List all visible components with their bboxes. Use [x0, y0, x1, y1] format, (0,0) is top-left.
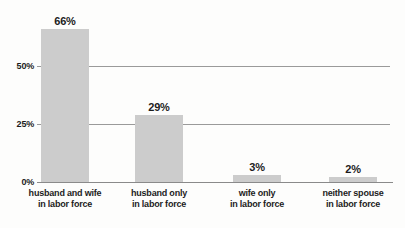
bar-group: 29%: [135, 101, 183, 182]
x-axis-category-label: husband only in labor force: [111, 188, 207, 210]
y-axis-tick-label: 50%: [0, 61, 34, 71]
y-axis-tick-label: 25%: [0, 119, 34, 129]
bar-group: 66%: [41, 15, 89, 182]
bar-group: 2%: [329, 163, 377, 182]
bar-value-label: 29%: [148, 101, 169, 113]
x-axis-category-label: husband and wife in labor force: [17, 188, 113, 210]
y-axis-tick-label: 0%: [0, 177, 34, 187]
bar-value-label: 2%: [345, 163, 361, 175]
gridline-25: [37, 124, 390, 125]
bar-value-label: 3%: [249, 161, 265, 173]
x-axis-category-label: wife only in labor force: [209, 188, 305, 210]
bar-chart: 50% 25% 0% 66% 29% 3% 2% husband and wif…: [0, 0, 405, 228]
x-axis-category-label: neither spouse in labor force: [305, 188, 401, 210]
bar: [135, 115, 183, 182]
bar: [233, 175, 281, 182]
bar: [41, 29, 89, 182]
gridline-50: [37, 66, 390, 67]
bar-group: 3%: [233, 161, 281, 182]
x-axis-baseline: [37, 182, 393, 183]
bar-value-label: 66%: [54, 15, 75, 27]
